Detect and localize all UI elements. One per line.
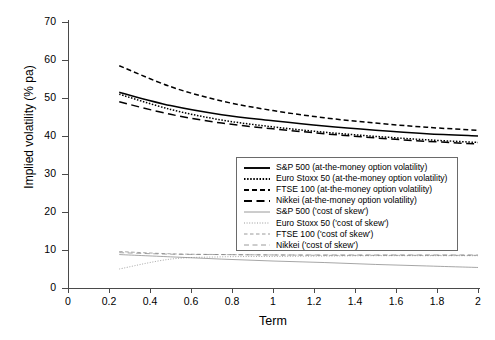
series-line-7 [119,253,478,255]
x-axis-tick-label: 1.4 [335,296,375,307]
x-axis-tick-label: 0.4 [130,296,170,307]
y-axis-tick-label: 70 [22,16,56,26]
legend-item[interactable]: Euro Stoxx 50 ('cost of skew') [237,217,457,228]
legend-label: Euro Stoxx 50 ('cost of skew') [276,219,389,228]
chart-legend: S&P 500 (at-the-money option volatility)… [236,157,458,251]
y-axis-tick-label: 50 [22,92,56,102]
x-axis-tick [191,288,192,293]
series-line-2 [119,66,478,131]
x-axis-tick [478,288,479,293]
x-axis-tick-label: 0.6 [171,296,211,307]
legend-line-swatch-5 [244,218,270,228]
x-axis-tick [273,288,274,293]
x-axis-tick [437,288,438,293]
legend-line-swatch-4 [244,207,270,217]
legend-line-swatch-0 [244,163,270,173]
x-axis-tick [396,288,397,293]
legend-item[interactable]: S&P 500 (at-the-money option volatility) [237,162,457,173]
y-axis-tick-label: 10 [22,244,56,254]
x-axis-tick [232,288,233,293]
x-axis-tick [150,288,151,293]
x-axis-tick [355,288,356,293]
legend-item[interactable]: Euro Stoxx 50 (at-the-money option volat… [237,173,457,184]
legend-label: S&P 500 ('cost of skew') [276,207,368,216]
legend-label: FTSE 100 (at-the-money option volatility… [276,185,432,194]
legend-line-swatch-6 [244,229,270,239]
legend-label: S&P 500 (at-the-money option volatility) [276,163,427,172]
legend-label: Euro Stoxx 50 (at-the-money option volat… [276,174,447,183]
legend-label: FTSE 100 ('cost of skew') [276,230,373,239]
x-axis-tick-label: 1.2 [294,296,334,307]
legend-line-swatch-3 [244,196,270,206]
y-axis-tick-label: 60 [22,54,56,64]
legend-line-swatch-2 [244,185,270,195]
legend-line-swatch-7 [244,240,270,250]
y-axis-tick-label: 30 [22,168,56,178]
legend-item[interactable]: Nikkei ('cost of skew') [237,240,457,251]
legend-line-swatch-1 [244,174,270,184]
x-axis-tick-label: 1 [253,296,293,307]
y-axis-tick-label: 40 [22,130,56,140]
x-axis-tick-label: 1.6 [376,296,416,307]
y-axis-tick-label: 20 [22,206,56,216]
x-axis-tick-label: 2 [458,296,495,307]
x-axis-tick-label: 1.8 [417,296,457,307]
legend-item[interactable]: S&P 500 ('cost of skew') [237,206,457,217]
y-axis-tick-label: 0 [22,282,56,292]
legend-item[interactable]: Nikkei (at-the-money option volatility) [237,195,457,206]
series-line-1 [119,94,478,142]
x-axis-tick [109,288,110,293]
x-axis-tick [314,288,315,293]
legend-item[interactable]: FTSE 100 ('cost of skew') [237,229,457,240]
x-axis-tick-label: 0.2 [89,296,129,307]
x-axis-tick-label: 0 [48,296,88,307]
series-line-5 [119,256,478,269]
chart-figure: Implied volatility (% pa) 01020304050607… [0,0,495,340]
legend-label: Nikkei (at-the-money option volatility) [276,196,417,205]
x-axis-label: Term [178,314,368,328]
legend-item[interactable]: FTSE 100 (at-the-money option volatility… [237,184,457,195]
x-axis-tick-label: 0.8 [212,296,252,307]
legend-label: Nikkei ('cost of skew') [276,241,358,250]
x-axis-tick [68,288,69,293]
